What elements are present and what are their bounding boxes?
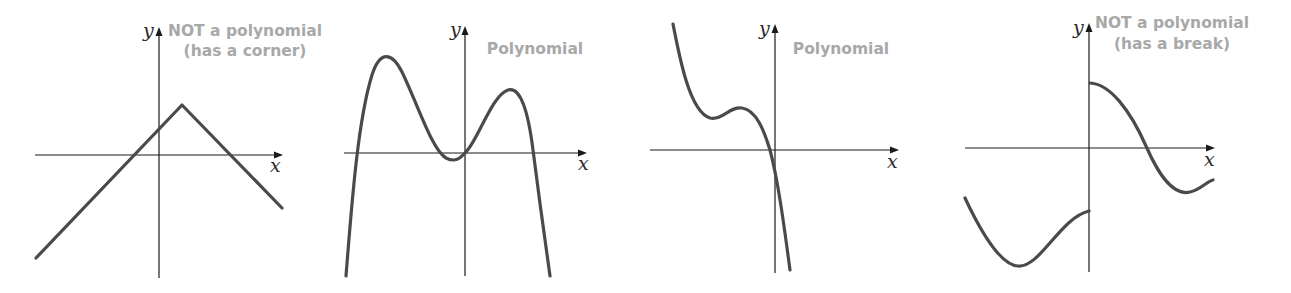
caption-line1: NOT a polynomial [1095,14,1249,32]
y-axis-arrow-icon [462,26,469,35]
caption-line2: (has a break) [1114,35,1230,53]
y-axis-label: y [1072,16,1084,38]
x-axis-label: x [270,154,281,176]
caption-line1: Polynomial [487,40,583,58]
y-axis-label: y [449,18,461,40]
panel-quartic: y x Polynomial [344,18,589,276]
caption-line1: NOT a polynomial [168,22,322,40]
quartic-curve [346,57,550,276]
y-axis-arrow-icon [156,27,163,36]
left-branch-curve [965,198,1089,266]
cubic-curve [673,24,790,270]
x-axis-label: x [1204,148,1215,170]
x-axis-label: x [578,152,589,174]
caption-line1: Polynomial [793,40,889,58]
panel-corner: y x NOT a polynomial (has a corner) [35,19,322,278]
panel-cubic: y x Polynomial [650,17,899,273]
y-axis-arrow-icon [772,24,779,33]
y-axis-label: y [142,19,154,41]
right-branch-curve [1090,83,1213,193]
y-axis-label: y [758,17,770,39]
polynomial-comparison-figure: y x NOT a polynomial (has a corner) y x … [0,0,1291,293]
y-axis-arrow-icon [1086,23,1093,32]
panel-break: y x NOT a polynomial (has a break) [965,14,1249,272]
caption-line2: (has a corner) [184,42,307,60]
x-axis-label: x [887,150,898,172]
